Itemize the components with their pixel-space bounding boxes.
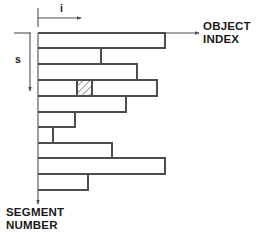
- bars-group: [38, 33, 165, 190]
- bar-segment-8: [38, 143, 112, 158]
- bar-segment-7: [38, 127, 53, 143]
- bar-segment-5: [38, 96, 126, 112]
- segment-number-axis-label: SEGMENT NUMBER: [6, 206, 64, 232]
- object-index-axis-label: OBJECT INDEX: [203, 20, 251, 46]
- segment-variable-label: s: [15, 54, 21, 66]
- figure-container: OBJECT INDEX SEGMENT NUMBER i s: [0, 0, 261, 239]
- hatched-cell: [77, 80, 92, 96]
- bar-segment-3: [38, 64, 137, 80]
- bar-segment-2: [38, 48, 101, 64]
- axes-group: [38, 33, 199, 204]
- bar-segment-10: [38, 174, 88, 190]
- index-variable-label: i: [60, 3, 63, 15]
- bar-segment-1: [38, 33, 165, 48]
- bar-segment-9: [38, 158, 165, 174]
- bar-segment-4: [38, 80, 157, 96]
- highlighted-cell-group: [77, 80, 92, 96]
- bar-segment-6: [38, 112, 75, 127]
